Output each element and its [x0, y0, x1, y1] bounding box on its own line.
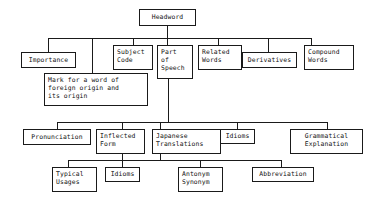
node-abbreviation[interactable]: Abbreviation — [252, 167, 314, 182]
connector-drop-idioms-level3 — [237, 122, 238, 129]
connector-headword-to-bus — [167, 26, 168, 38]
node-grammatical-explanation[interactable]: Grammatical Explanation — [290, 129, 363, 154]
connector-drop-grammatical-explanation — [327, 122, 328, 129]
connector-drop-japanese-translations — [160, 122, 161, 129]
node-related-words[interactable]: Related Words — [198, 45, 242, 70]
node-typical-usages[interactable]: Typical Usages — [52, 167, 97, 192]
connector-drop-inflected-form — [122, 122, 123, 129]
connector-drop-typical-usages — [68, 160, 69, 167]
connector-drop-subject-code — [133, 38, 134, 45]
node-compound-words[interactable]: Compound Words — [304, 45, 354, 70]
connector-level3-bus — [57, 122, 328, 123]
node-derivatives[interactable]: Derivatives — [242, 52, 297, 68]
node-pronunciation[interactable]: Pronunciation — [23, 129, 91, 145]
node-importance[interactable]: Importance — [21, 52, 76, 68]
connector-drop-importance — [48, 38, 49, 52]
node-antonym-synonym[interactable]: Antonym Synonym — [178, 167, 223, 192]
node-japanese-translations[interactable]: Japanese Translations — [152, 129, 221, 154]
connector-drop-abbreviation — [281, 160, 282, 167]
connector-part-of-speech-to-bus — [168, 79, 169, 122]
connector-drop-pronunciation — [57, 122, 58, 129]
node-inflected-form[interactable]: Inflected Form — [96, 129, 145, 154]
connector-drop-idioms-level4 — [122, 160, 123, 167]
connector-drop-part-of-speech — [167, 38, 168, 45]
node-idioms-level3[interactable]: Idioms — [220, 129, 255, 144]
connector-level4-bus — [68, 160, 281, 161]
connector-drop-related-words — [218, 38, 219, 45]
node-headword[interactable]: Headword — [139, 9, 196, 26]
connector-drop-compound-words — [311, 38, 312, 45]
connector-drop-antonym-synonym — [200, 160, 201, 167]
tree-diagram: Headword Importance Subject Code Part of… — [0, 0, 378, 203]
node-foreign-origin-mark[interactable]: Mark for a word of foreign origin and it… — [44, 73, 148, 106]
node-idioms-level4[interactable]: Idioms — [105, 167, 140, 182]
connector-level2-bus — [48, 38, 311, 39]
connector-drop-derivatives — [268, 38, 269, 52]
node-subject-code[interactable]: Subject Code — [113, 45, 153, 70]
node-part-of-speech[interactable]: Part of Speech — [157, 45, 193, 79]
connector-drop-foreign-origin — [92, 38, 93, 73]
